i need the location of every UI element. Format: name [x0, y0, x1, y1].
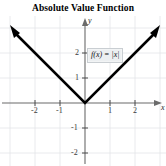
x-tick-label-1: 1	[108, 107, 112, 115]
graph-svg	[0, 16, 166, 166]
coordinate-plane: -2 -1 1 2 2 1 -1 -2 y x f(x) = |x|	[0, 16, 166, 166]
x-axis-label: x	[161, 104, 165, 112]
gridlines	[0, 16, 166, 166]
figure-title: Absolute Value Function	[0, 3, 166, 13]
y-tick-label-1: 1	[75, 74, 79, 82]
y-axis	[82, 18, 88, 164]
function-formula-label: f(x) = |x|	[87, 48, 123, 63]
y-tick-label-neg1: -1	[71, 124, 78, 132]
x-tick-label-2: 2	[133, 107, 137, 115]
y-tick-label-neg2: -2	[71, 149, 78, 157]
absolute-value-function-figure: Absolute Value Function	[0, 0, 166, 166]
y-axis-label: y	[88, 17, 92, 25]
x-tick-label-neg2: -2	[31, 107, 38, 115]
y-tick-label-2: 2	[75, 49, 79, 57]
x-tick-label-neg1: -1	[56, 107, 63, 115]
